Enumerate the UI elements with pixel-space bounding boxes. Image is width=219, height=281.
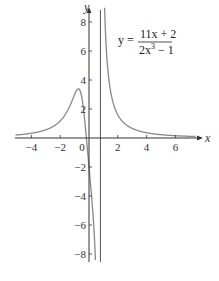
formula-denominator: 2x3 − 1 <box>139 42 174 57</box>
y-tick-label: −8 <box>74 248 86 260</box>
x-tick-label: −2 <box>54 141 66 153</box>
x-axis-label: x <box>204 131 211 145</box>
formula-lhs: y = <box>118 33 134 47</box>
y-tick-label: 6 <box>81 45 87 57</box>
y-tick-label: 2 <box>81 103 87 115</box>
function-plot: −4−20246−8−6−4−22468 x y y = 11x + 2 2x3… <box>0 0 219 281</box>
axes <box>15 7 203 262</box>
x-tick-label: −4 <box>26 141 38 153</box>
y-tick-label: 8 <box>81 16 87 28</box>
y-tick-label: −6 <box>74 219 86 231</box>
x-tick-label: 2 <box>115 141 121 153</box>
formula-annotation: y = 11x + 2 2x3 − 1 <box>118 27 176 57</box>
x-axis-arrow-icon <box>197 136 203 141</box>
formula-numerator: 11x + 2 <box>140 27 176 41</box>
x-tick-label: 6 <box>173 141 179 153</box>
x-tick-label: 4 <box>144 141 150 153</box>
y-axis-label: y <box>83 0 90 14</box>
y-tick-label: −2 <box>74 161 86 173</box>
y-tick-label: 4 <box>81 74 87 86</box>
x-tick-label: 0 <box>79 141 85 153</box>
y-tick-label: −4 <box>74 190 86 202</box>
